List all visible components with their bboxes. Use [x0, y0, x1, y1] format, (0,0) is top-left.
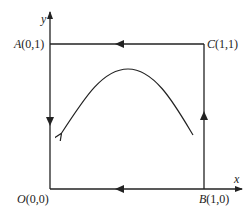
point-c-coords: (1,1) [215, 37, 238, 51]
point-o-name: O [17, 192, 26, 206]
flow-diagram [0, 0, 252, 212]
point-b-label: B(1,0) [199, 193, 229, 205]
left-arrow-icon [115, 40, 124, 48]
point-b-coords: (1,0) [206, 192, 229, 206]
point-o-coords: (0,0) [26, 192, 49, 206]
point-c-label: C(1,1) [207, 38, 238, 50]
left-arrow-icon [115, 185, 124, 193]
point-a-label: A(0,1) [14, 38, 44, 50]
point-o-label: O(0,0) [17, 193, 49, 205]
up-arrow-icon [200, 111, 208, 120]
point-c-name: C [207, 37, 215, 51]
y-axis-label: y [41, 13, 46, 25]
x-axis-label: x [234, 173, 239, 185]
trajectory-curve [61, 69, 193, 135]
point-a-coords: (0,1) [21, 37, 44, 51]
down-arrow-icon [46, 117, 54, 126]
